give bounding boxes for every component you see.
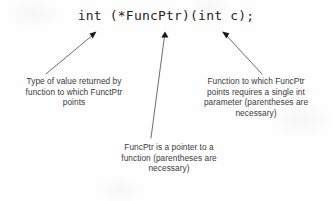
caption-line: Function to which FuncPtr bbox=[182, 76, 330, 87]
caption-line: points requires a single int bbox=[182, 87, 330, 98]
caption-line: necessary) bbox=[182, 108, 330, 119]
caption-line: necessary) bbox=[86, 163, 252, 174]
caption-line: Type of value returned by bbox=[2, 76, 146, 87]
caption-parameter-list: Function to which FuncPtr points require… bbox=[182, 76, 330, 118]
caption-pointer-name: FuncPtr is a pointer to a function (pare… bbox=[86, 142, 252, 174]
caption-return-type: Type of value returned by function to wh… bbox=[2, 76, 146, 108]
caption-line: function to which FunctPtr bbox=[2, 87, 146, 98]
caption-line: FuncPtr is a pointer to a bbox=[86, 142, 252, 153]
caption-line: parameter (parentheses are bbox=[182, 97, 330, 108]
code-declaration: int (*FuncPtr)(int c); bbox=[0, 8, 332, 23]
arrow-to-return-type bbox=[46, 32, 97, 75]
caption-line: points bbox=[2, 97, 146, 108]
caption-line: function (parentheses are bbox=[86, 153, 252, 164]
function-pointer-diagram: int (*FuncPtr)(int c); Type of value ret… bbox=[0, 0, 332, 201]
arrow-to-parameter-list bbox=[222, 32, 262, 75]
arrow-to-pointer-name bbox=[151, 32, 168, 139]
